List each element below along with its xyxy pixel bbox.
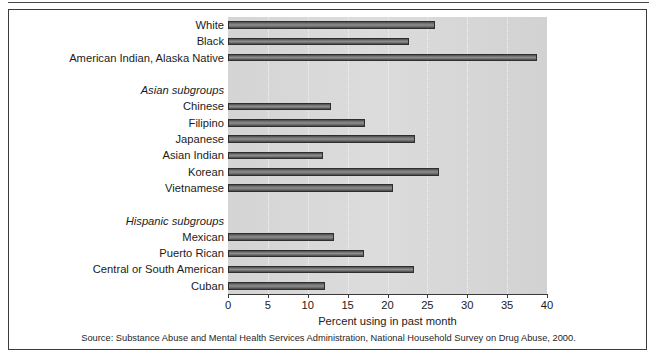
figure-frame: WhiteBlackAmerican Indian, Alaska Native… [8, 9, 647, 350]
bar [228, 266, 414, 274]
x-axis-tick [467, 294, 468, 298]
x-axis-tick [268, 294, 269, 298]
x-axis-tick [388, 294, 389, 298]
category-label: American Indian, Alaska Native [69, 50, 224, 66]
category-label: White [195, 17, 224, 33]
x-axis-tick [348, 294, 349, 298]
x-axis-tick-label: 20 [368, 299, 408, 311]
x-axis-tick [308, 294, 309, 298]
page-top-rule [8, 2, 649, 3]
category-label: Asian Indian [162, 147, 224, 163]
bar [228, 38, 409, 46]
category-label: Filipino [189, 115, 224, 131]
category-axis-labels: WhiteBlackAmerican Indian, Alaska Native… [19, 17, 224, 294]
category-label: Puerto Rican [159, 245, 224, 261]
bar [228, 21, 435, 29]
bar [228, 184, 393, 192]
category-group-label: Hispanic subgroups [126, 213, 224, 229]
category-label: Chinese [183, 98, 224, 114]
category-label: Korean [188, 164, 224, 180]
x-axis-tick [507, 294, 508, 298]
x-axis-tick-label: 35 [487, 299, 527, 311]
category-label: Black [197, 33, 224, 49]
plot-area [228, 17, 547, 294]
x-axis-tick [427, 294, 428, 298]
bar [228, 103, 331, 111]
x-axis-title: Percent using in past month [228, 315, 547, 327]
x-axis-tick-label: 0 [208, 299, 248, 311]
bar [228, 233, 334, 241]
bar [228, 250, 364, 258]
bar [228, 282, 325, 290]
x-axis-tick-label: 30 [447, 299, 487, 311]
x-axis-tick [547, 294, 548, 298]
x-axis-tick-label: 5 [248, 299, 288, 311]
category-label: Mexican [182, 229, 224, 245]
x-axis-tick-label: 40 [527, 299, 567, 311]
x-axis-tick-label: 15 [328, 299, 368, 311]
bar [228, 168, 439, 176]
category-group-label: Asian subgroups [141, 82, 224, 98]
x-axis-tick-label: 25 [407, 299, 447, 311]
category-label: Japanese [175, 131, 224, 147]
bar [228, 135, 415, 143]
bar [228, 54, 537, 62]
x-axis-tick [228, 294, 229, 298]
category-label: Cuban [191, 278, 224, 294]
category-label: Central or South American [93, 261, 224, 277]
x-axis-tick-label: 10 [288, 299, 328, 311]
bar [228, 152, 323, 160]
bar [228, 119, 365, 127]
source-note: Source: Substance Abuse and Mental Healt… [9, 333, 648, 343]
category-label: Vietnamese [165, 180, 224, 196]
bar-chart: WhiteBlackAmerican Indian, Alaska Native… [9, 10, 648, 351]
